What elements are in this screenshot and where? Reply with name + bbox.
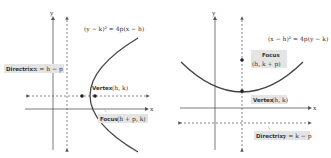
equation-label: (y − k)² = 4p(x − h)	[84, 25, 144, 33]
right-parabola-panel: y x (x − h)² = 4p(y − k) Focus (h, k + p…	[180, 9, 328, 150]
left-parabola-panel: y x (y − k)² = 4p(x − h) Directrix: x = …	[4, 9, 154, 152]
y-axis-label: y	[211, 9, 216, 17]
y-axis-label: y	[49, 9, 54, 17]
focus-label: Focus	[262, 52, 280, 58]
directrix-label: Directrix:	[256, 133, 285, 139]
directrix-equation: y = k − p	[282, 132, 312, 140]
focus-label: Focus	[100, 116, 118, 122]
vertex-point	[240, 89, 244, 93]
directrix-label: Directrix:	[6, 66, 35, 72]
equation-label: (x − h)² = 4p(y − k)	[268, 35, 328, 43]
x-axis-label: x	[150, 105, 154, 112]
directrix-equation: x = h − p	[34, 65, 63, 73]
vertex-label: Vertex	[253, 97, 274, 103]
vertex-coords: (h, k)	[112, 84, 128, 91]
vertex-point	[80, 94, 84, 98]
focus-point	[93, 94, 97, 98]
parabola-diagrams: y x (y − k)² = 4p(x − h) Directrix: x = …	[0, 0, 331, 158]
focus-coords: (h, k + p)	[252, 60, 281, 68]
focus-coords: (h + p, k)	[117, 115, 146, 123]
vertex-label: Vertex	[92, 85, 113, 91]
parabola-curve	[90, 38, 138, 152]
x-axis-label: x	[313, 104, 317, 111]
vertex-coords: (h, k)	[272, 96, 288, 103]
focus-point	[240, 58, 244, 62]
